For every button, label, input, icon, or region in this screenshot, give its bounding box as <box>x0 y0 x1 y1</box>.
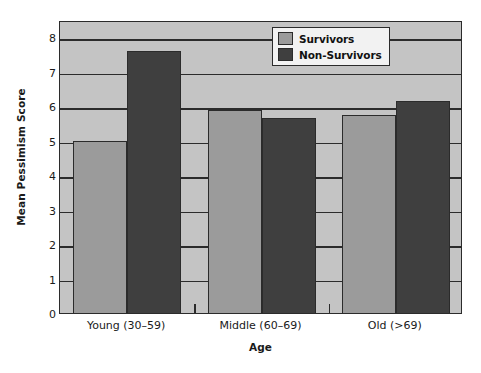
x-tick-mark <box>194 304 196 313</box>
y-tick-label: 1 <box>30 273 56 286</box>
y-axis-title-text: Mean Pessimism Score <box>15 88 27 225</box>
x-axis-tick-labels: Young (30–59)Middle (60–69)Old (>69) <box>59 319 462 337</box>
bar-nonsurvivors <box>262 118 316 313</box>
legend-item-survivors: Survivors <box>278 32 382 45</box>
legend-label-survivors: Survivors <box>299 33 354 45</box>
bar-chart-figure: Mean Pessimism Score 012345678 Survivors… <box>0 0 481 373</box>
legend-swatch-survivors-icon <box>278 32 293 45</box>
x-tick-label: Middle (60–69) <box>220 319 302 332</box>
x-tick-label: Young (30–59) <box>87 319 166 332</box>
y-tick-label: 7 <box>30 66 56 79</box>
bar-series-container <box>60 22 461 313</box>
y-tick-label: 6 <box>30 101 56 114</box>
bar-survivors <box>73 141 127 313</box>
bar-nonsurvivors <box>396 101 450 313</box>
y-tick-label: 5 <box>30 135 56 148</box>
y-tick-label: 8 <box>30 32 56 45</box>
bar-survivors <box>208 110 262 313</box>
plot-area <box>59 21 462 314</box>
y-tick-label: 0 <box>30 308 56 321</box>
y-tick-label: 3 <box>30 204 56 217</box>
legend: Survivors Non-Survivors <box>272 27 390 66</box>
bar-survivors <box>342 115 396 313</box>
y-tick-label: 2 <box>30 239 56 252</box>
y-tick-label: 4 <box>30 170 56 183</box>
legend-label-non-survivors: Non-Survivors <box>299 49 382 61</box>
y-axis-title: Mean Pessimism Score <box>10 0 32 314</box>
x-tick-mark <box>329 304 331 313</box>
x-tick-label: Old (>69) <box>368 319 422 332</box>
x-axis-title: Age <box>59 341 462 353</box>
y-axis-tick-labels: 012345678 <box>30 21 56 314</box>
legend-swatch-non-survivors-icon <box>278 48 293 61</box>
bar-nonsurvivors <box>127 51 181 313</box>
legend-item-non-survivors: Non-Survivors <box>278 48 382 61</box>
